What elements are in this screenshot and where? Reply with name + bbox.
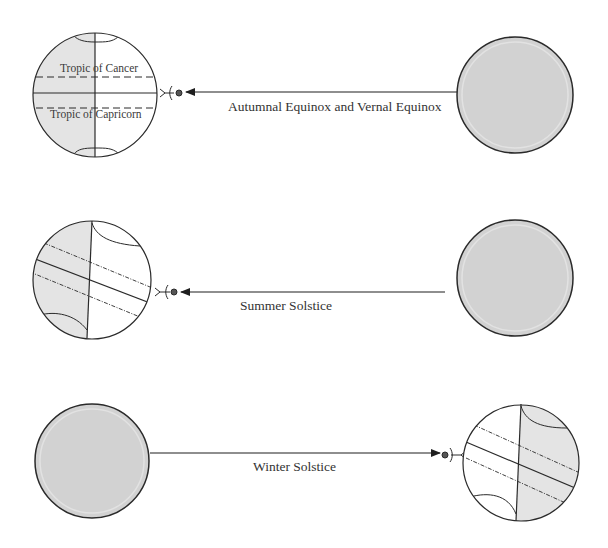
night-side-shading — [20, 215, 92, 345]
sun-summer — [457, 220, 573, 336]
tropic-of-cancer-label: Tropic of Cancer — [60, 62, 138, 74]
viewer-icon — [442, 448, 466, 462]
sun-equinox — [457, 37, 573, 153]
summer-solstice-caption: Summer Solstice — [240, 298, 332, 314]
row-summer-solstice — [20, 215, 573, 345]
night-side-shading — [516, 400, 600, 530]
night-side-shading — [33, 30, 95, 160]
sun-winter — [35, 404, 149, 518]
earth-equinox — [33, 30, 157, 160]
viewer-icon — [155, 285, 177, 299]
row-equinox — [33, 30, 573, 160]
winter-solstice-caption: Winter Solstice — [253, 459, 336, 475]
tropic-of-capricorn-label: Tropic of Capricorn — [50, 108, 142, 120]
earth-winter — [463, 400, 600, 530]
equinox-caption: Autumnal Equinox and Vernal Equinox — [228, 99, 441, 115]
earth-summer — [20, 215, 155, 345]
viewer-icon — [160, 86, 182, 100]
